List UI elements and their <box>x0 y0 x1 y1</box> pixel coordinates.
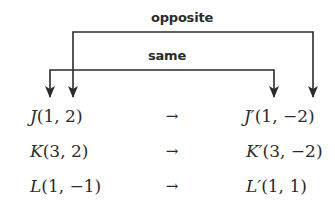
point-coords: (3, −2) <box>263 141 323 161</box>
point-name: L′ <box>246 176 261 196</box>
point-coords: (1, 2) <box>37 106 83 126</box>
maps-to-arrow-icon: → <box>166 107 179 125</box>
image-point: J′(1, −2) <box>244 106 315 126</box>
point-name: K <box>30 141 43 161</box>
point-coords: (3, 2) <box>43 141 89 161</box>
original-point: K(3, 2) <box>30 141 88 161</box>
point-coords: (1, −1) <box>41 176 101 196</box>
point-coords: (1, −2) <box>255 106 315 126</box>
same-label: same <box>148 48 186 63</box>
opposite-bracket <box>68 32 318 98</box>
point-name: J′ <box>244 106 255 126</box>
image-point: K′(3, −2) <box>246 141 323 161</box>
point-name: L <box>30 176 41 196</box>
reflection-diagram: opposite same J(1, 2) → J′(1, −2) K(3, 2… <box>0 0 335 214</box>
same-bracket <box>45 70 279 98</box>
maps-to-arrow-icon: → <box>166 142 179 160</box>
point-name: J <box>30 106 37 126</box>
point-name: K′ <box>246 141 263 161</box>
maps-to-arrow-icon: → <box>166 177 179 195</box>
original-point: L(1, −1) <box>30 176 101 196</box>
image-point: L′(1, 1) <box>246 176 307 196</box>
point-coords: (1, 1) <box>261 176 307 196</box>
opposite-label: opposite <box>151 10 213 25</box>
original-point: J(1, 2) <box>30 106 83 126</box>
